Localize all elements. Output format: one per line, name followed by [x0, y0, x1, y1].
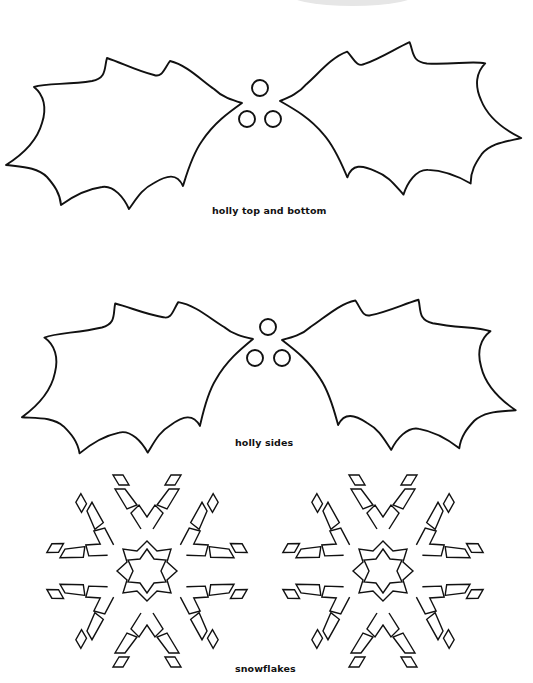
- holly-top-bottom-template: [6, 32, 526, 209]
- caption-holly-sides: holly sides: [235, 437, 293, 448]
- holly-berries: [239, 80, 281, 127]
- holly-leaf-left: [14, 294, 260, 461]
- snowflake-right: [283, 475, 483, 667]
- holly-leaf-left: [6, 58, 242, 209]
- snowflake-left: [47, 475, 247, 667]
- holly-leaf-right: [275, 32, 525, 207]
- template-page: holly top and bottom holly sides snowfla…: [0, 0, 533, 683]
- holly-leaf-right: [278, 295, 519, 454]
- holly-berries: [247, 319, 290, 366]
- caption-snowflakes: snowflakes: [235, 663, 296, 674]
- caption-holly-top-bottom: holly top and bottom: [212, 205, 327, 216]
- template-artwork: [0, 0, 533, 683]
